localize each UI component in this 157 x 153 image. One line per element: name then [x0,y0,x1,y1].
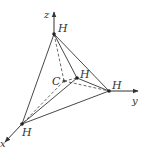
edge-bottom-right [22,91,109,124]
x-axis [5,124,22,142]
atom-h-top [52,32,56,36]
atom-h-middle [75,76,79,80]
methane-diagram: z y x H C H H H [0,0,157,153]
label-h-top: H [57,22,68,35]
label-h-bottom: H [21,126,32,139]
label-h-right: H [111,79,122,92]
bond-c-top [54,34,64,81]
label-c: C [52,75,61,88]
atom-h-right [107,89,111,93]
z-axis-label: z [43,9,50,20]
x-axis-label: x [0,138,6,149]
y-axis-label: y [131,95,138,106]
edge-top-middle [54,34,77,78]
label-h-middle: H [79,68,90,81]
bond-c-right [64,81,109,91]
atom-c [63,80,66,83]
